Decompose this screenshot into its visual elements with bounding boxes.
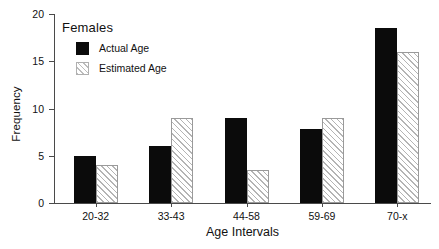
- bar-group: [300, 14, 344, 203]
- bar-estimated-age: [171, 118, 193, 203]
- legend-swatch-estimated-icon: [76, 62, 89, 75]
- y-tick-label: 5: [14, 150, 44, 162]
- y-tick: [49, 203, 54, 204]
- x-axis-line: [54, 203, 431, 204]
- x-tick-label: 33-43: [131, 210, 211, 222]
- x-tick: [397, 203, 398, 207]
- bar-actual-age: [149, 146, 171, 203]
- bar-chart: Frequency 05101520 20-3233-4344-5859-697…: [0, 0, 439, 249]
- x-tick-label: 70-x: [357, 210, 437, 222]
- x-axis-title: Age Intervals: [54, 225, 431, 239]
- bar-group: [375, 14, 419, 203]
- bar-actual-age: [300, 129, 322, 203]
- chart-legend: Females Actual AgeEstimated Age: [62, 20, 222, 81]
- x-tick-label: 20-32: [56, 210, 136, 222]
- legend-swatch-actual-icon: [76, 42, 89, 55]
- bar-actual-age: [375, 28, 397, 203]
- x-tick: [247, 203, 248, 207]
- x-tick: [96, 203, 97, 207]
- x-tick: [322, 203, 323, 207]
- bar-group: [225, 14, 269, 203]
- x-tick-label: 59-69: [282, 210, 362, 222]
- bar-estimated-age: [247, 170, 269, 203]
- bar-estimated-age: [96, 165, 118, 203]
- legend-entries: Actual AgeEstimated Age: [62, 41, 222, 75]
- y-tick-label: 0: [14, 197, 44, 209]
- legend-entry: Estimated Age: [62, 61, 222, 75]
- legend-title: Females: [62, 20, 222, 35]
- y-tick-label: 15: [14, 55, 44, 67]
- bar-actual-age: [225, 118, 247, 203]
- legend-label: Estimated Age: [99, 62, 167, 74]
- bar-estimated-age: [322, 118, 344, 203]
- bar-actual-age: [74, 156, 96, 203]
- legend-entry: Actual Age: [62, 41, 222, 55]
- y-tick-label: 20: [14, 8, 44, 20]
- legend-label: Actual Age: [99, 42, 149, 54]
- y-tick-label: 10: [14, 103, 44, 115]
- bar-estimated-age: [397, 52, 419, 203]
- x-tick: [171, 203, 172, 207]
- x-tick-label: 44-58: [207, 210, 287, 222]
